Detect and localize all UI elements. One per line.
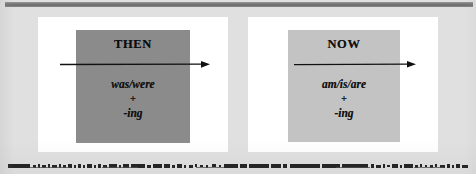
tense-box-then: THEN was/were + -ing xyxy=(76,30,190,143)
tense-formula-then-operator: + xyxy=(76,92,190,105)
slide-canvas: THEN was/were + -ing NOW am/is/are + -in… xyxy=(0,0,476,174)
tense-box-then-title: THEN xyxy=(114,38,152,51)
tense-formula-now-suffix: -ing xyxy=(288,105,400,121)
tense-box-now-title: NOW xyxy=(327,38,360,51)
top-divider-rule xyxy=(5,2,473,7)
tense-formula-then-suffix: -ing xyxy=(76,105,190,121)
tense-formula-then: was/were + -ing xyxy=(76,76,190,122)
tense-formula-now-verb: am/is/are xyxy=(288,76,400,92)
scan-artifact-band xyxy=(6,162,472,171)
tense-box-now: NOW am/is/are + -ing xyxy=(288,30,400,142)
tense-formula-now-operator: + xyxy=(288,92,400,105)
tense-formula-then-verb: was/were xyxy=(76,76,190,92)
tense-formula-now: am/is/are + -ing xyxy=(288,76,400,122)
